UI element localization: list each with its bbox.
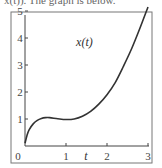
x-tick-label: 0 — [15, 150, 21, 162]
y-tick-label: 3 — [17, 59, 23, 71]
tick-labels: 012312345 — [15, 5, 151, 162]
x-tick-label: 2 — [104, 150, 110, 162]
line-chart: 012312345 x(t) t — [0, 0, 162, 168]
y-tick-label: 2 — [17, 86, 23, 98]
axis-ticks — [25, 11, 148, 146]
y-tick-label: 1 — [17, 113, 23, 125]
y-tick-label: 4 — [17, 32, 23, 44]
x-tick-label: 3 — [145, 150, 151, 162]
x-tick-label: 1 — [63, 150, 69, 162]
series-line-x-of-t — [25, 7, 148, 143]
y-tick-label: 5 — [17, 5, 23, 17]
series-annotation-label: x(t) — [75, 35, 93, 49]
x-axis-label: t — [84, 149, 88, 163]
